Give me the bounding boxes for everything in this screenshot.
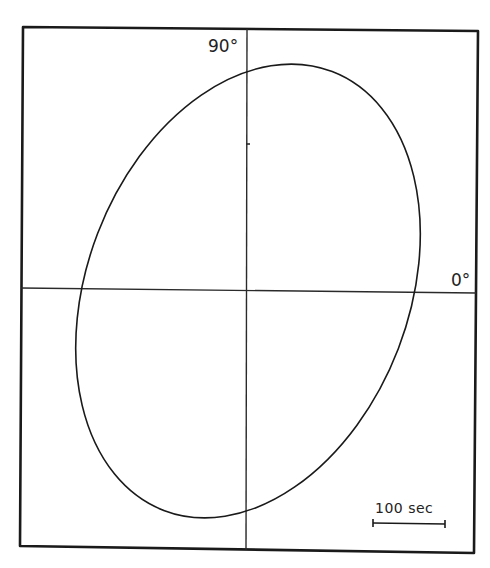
scale-bar-label: 100 sec [375, 500, 433, 516]
vertical-axis [246, 29, 247, 550]
scale-bar: 100 sec [373, 500, 445, 528]
label-0-degrees: 0° [451, 270, 470, 290]
label-90-degrees: 90° [208, 36, 238, 56]
phase-diagram: 90° 0° 100 sec [0, 0, 490, 568]
scale-bar-line [373, 523, 445, 524]
horizontal-axis [21, 288, 476, 293]
